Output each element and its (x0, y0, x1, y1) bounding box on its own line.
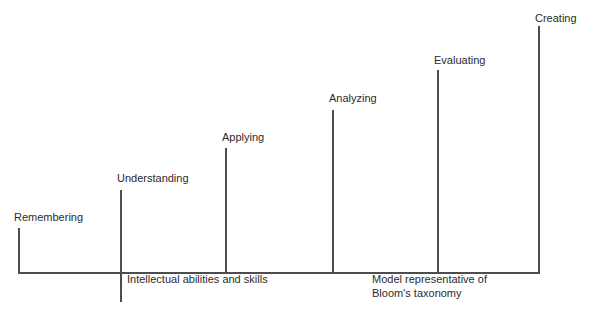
bar-creating (538, 26, 540, 272)
bar-label-understanding: Understanding (117, 172, 189, 185)
bar-understanding (120, 190, 122, 272)
bar-label-analyzing: Analyzing (329, 92, 377, 105)
bar-applying (225, 148, 227, 272)
section-divider-line (120, 274, 122, 302)
bar-evaluating (437, 70, 439, 272)
bloom-taxonomy-diagram: Remembering Understanding Applying Analy… (0, 0, 593, 315)
bar-label-remembering: Remembering (14, 211, 83, 224)
caption-left-line-1: Intellectual abilities and skills (127, 272, 268, 286)
caption-intellectual-abilities: Intellectual abilities and skills (127, 272, 268, 286)
caption-bloom-taxonomy: Model representative of Bloom's taxonomy (372, 272, 487, 300)
bar-remembering (18, 228, 20, 272)
caption-right-line-2: Bloom's taxonomy (372, 286, 487, 300)
bar-label-creating: Creating (535, 12, 577, 25)
bar-label-applying: Applying (222, 131, 264, 144)
bar-label-evaluating: Evaluating (434, 54, 485, 67)
caption-right-line-1: Model representative of (372, 272, 487, 286)
bar-analyzing (332, 110, 334, 272)
